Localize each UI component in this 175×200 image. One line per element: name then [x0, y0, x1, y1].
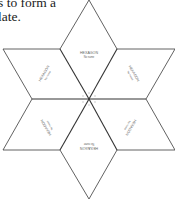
svg-text:HEXAGON: HEXAGON — [80, 51, 98, 55]
piece-label-bottom: HEXAGON No name — [80, 142, 98, 150]
piece-label-lower-right: HEXAGON No name — [121, 117, 137, 137]
star-template-diagram: HEXAGON No name HEXAGON No name HEXAGON … — [0, 0, 175, 200]
piece-label-top: HEXAGON No name — [80, 51, 98, 59]
piece-label-upper-left: HEXAGON No name — [38, 64, 54, 84]
svg-text:No name: No name — [84, 55, 95, 59]
svg-text:No name: No name — [83, 142, 94, 146]
svg-text:HEXAGON: HEXAGON — [80, 146, 98, 150]
piece-label-lower-left: HEXAGON No name — [40, 116, 56, 136]
piece-label-upper-right: HEXAGON No name — [124, 65, 140, 85]
